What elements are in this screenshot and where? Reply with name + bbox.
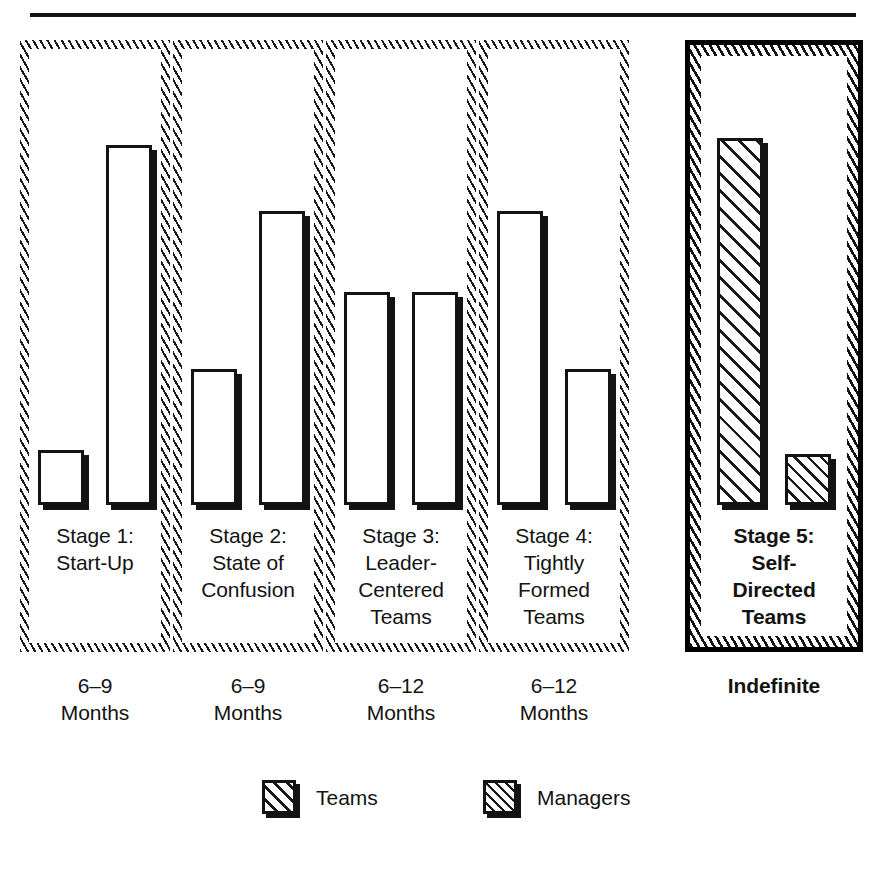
duration-caption-5: Indefinite — [685, 672, 863, 699]
stage-caption-3: Stage 3: Leader- Centered Teams — [326, 522, 476, 630]
bar-stage-2-teams — [191, 369, 237, 505]
bar-stage-4-teams — [497, 211, 543, 505]
duration-caption-2: 6–9 Months — [173, 672, 323, 726]
legend-label-managers: Managers — [537, 783, 630, 813]
legend-label-teams: Teams — [316, 783, 378, 813]
bar-stage-1-managers — [106, 145, 152, 505]
duration-caption-1: 6–9 Months — [20, 672, 170, 726]
legend-swatch-teams — [262, 780, 296, 814]
duration-caption-4: 6–12 Months — [479, 672, 629, 726]
bar-stage-2-managers — [259, 211, 305, 505]
bar-stage-4-managers — [565, 369, 611, 505]
duration-caption-3: 6–12 Months — [326, 672, 476, 726]
figure-root: Stage 1: Start-UpStage 2: State of Confu… — [0, 0, 880, 869]
stage-caption-5: Stage 5: Self- Directed Teams — [685, 522, 863, 630]
legend-swatch-managers — [483, 780, 517, 814]
stage-caption-1: Stage 1: Start-Up — [20, 522, 170, 576]
bar-stage-5-managers — [785, 454, 831, 505]
top-horizontal-rule — [30, 13, 856, 17]
stage-caption-2: Stage 2: State of Confusion — [173, 522, 323, 603]
bar-stage-3-managers — [412, 292, 458, 505]
stage-caption-4: Stage 4: Tightly Formed Teams — [479, 522, 629, 630]
bar-stage-5-teams — [717, 138, 763, 505]
bar-stage-1-teams — [38, 450, 84, 505]
bar-stage-3-teams — [344, 292, 390, 505]
chart-legend: TeamsManagers — [0, 780, 880, 840]
